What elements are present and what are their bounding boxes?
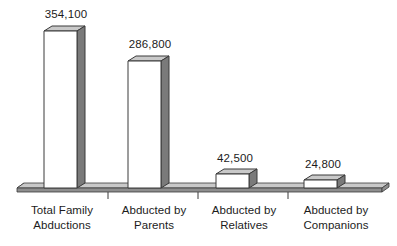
category-label-line2: Companions	[284, 218, 388, 233]
bar-value-label-4: 24,800	[287, 158, 359, 171]
category-label-line1: Abducted by	[106, 203, 202, 218]
bar-value-label-1: 354,100	[30, 8, 102, 21]
bar-value-label-3: 42,500	[199, 152, 271, 165]
category-label-line1: Abducted by	[284, 203, 388, 218]
category-label-abducted-by-parents: Abducted by Parents	[106, 203, 202, 232]
category-label-line2: Abductions	[14, 218, 110, 233]
bar-chart: 354,100 286,800 42,500 24,800 Total Fami…	[0, 0, 397, 246]
category-label-total-family-abductions: Total Family Abductions	[14, 203, 110, 232]
bar-abducted-by-companions[interactable]	[304, 175, 345, 188]
bar-abducted-by-parents[interactable]	[128, 56, 169, 188]
category-label-abducted-by-relatives: Abducted by Relatives	[196, 203, 292, 232]
category-label-line2: Parents	[106, 218, 202, 233]
category-label-line2: Relatives	[196, 218, 292, 233]
category-label-line1: Abducted by	[196, 203, 292, 218]
bar-total-family-abductions[interactable]	[44, 26, 85, 188]
bar-value-label-2: 286,800	[114, 38, 186, 51]
axis-ticks	[108, 192, 288, 199]
category-label-line1: Total Family	[14, 203, 110, 218]
bar-abducted-by-relatives[interactable]	[216, 169, 257, 188]
category-label-abducted-by-companions: Abducted by Companions	[284, 203, 388, 232]
